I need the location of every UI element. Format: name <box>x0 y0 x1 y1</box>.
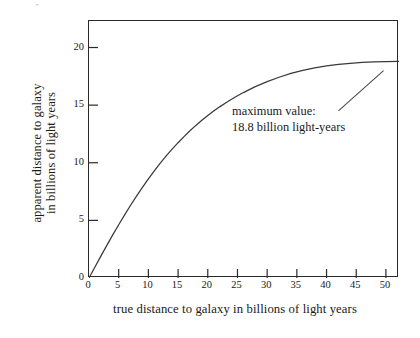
x-tick-label-25: 25 <box>224 280 248 291</box>
plot-area <box>88 20 398 277</box>
x-tick-label-30: 30 <box>254 280 278 291</box>
x-tick-label-40: 40 <box>314 280 338 291</box>
x-axis-label: true distance to galaxy in billions of l… <box>60 302 410 317</box>
y-tick-label-5: 5 <box>58 214 84 225</box>
x-tick-label-20: 20 <box>195 280 219 291</box>
x-tick-label-50: 50 <box>373 280 397 291</box>
data-curve <box>89 61 399 278</box>
y-tick-label-10: 10 <box>58 157 84 168</box>
y-tick-label-15: 15 <box>58 99 84 110</box>
x-tick-label-35: 35 <box>284 280 308 291</box>
x-tick-label-15: 15 <box>165 280 189 291</box>
x-tick-label-10: 10 <box>135 280 159 291</box>
x-axis-tick-labels: 05101520253035404550 <box>88 280 400 296</box>
x-tick-label-0: 0 <box>76 280 100 291</box>
y-axis-ticks <box>89 48 98 221</box>
x-tick-label-5: 5 <box>106 280 130 291</box>
y-axis-label-line1: apparent distance to galaxy <box>30 83 44 222</box>
plot-svg <box>89 21 399 278</box>
x-tick-label-45: 45 <box>343 280 367 291</box>
chart-figure: '' apparent distance to galaxy in billio… <box>0 0 420 338</box>
y-tick-label-20: 20 <box>58 41 84 52</box>
max-value-annotation: maximum value: 18.8 billion light-years <box>232 104 345 136</box>
annotation-line2: 18.8 billion light-years <box>232 120 345 136</box>
x-axis-ticks <box>119 269 386 278</box>
y-axis-tick-labels: 05101520 <box>56 20 84 277</box>
stray-ink-mark: '' <box>36 2 39 10</box>
annotation-line1: maximum value: <box>232 104 345 120</box>
